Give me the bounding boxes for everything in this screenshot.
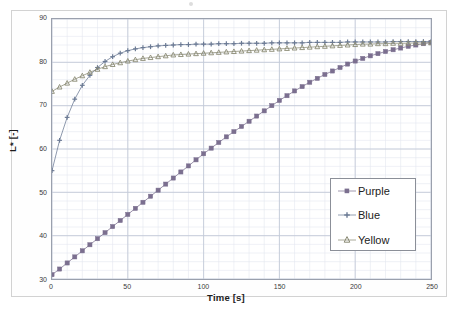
legend-item-blue[interactable]: Blue [331,203,415,227]
x-tick-label: 0 [38,283,64,291]
y-tick-label: 90 [23,14,47,22]
y-axis-title: L* [-] [7,106,18,176]
legend-label: Purple [358,185,390,197]
chart-legend[interactable]: Purple Blue Yellow [330,178,416,251]
x-tick-label: 50 [114,283,140,291]
x-axis-title: Time [s] [0,292,452,303]
square-marker-icon [337,184,357,198]
y-tick-label: 40 [23,232,47,240]
triangle-marker-icon [337,233,357,247]
y-tick-label: 70 [23,101,47,109]
x-tick-label: 250 [419,283,445,291]
chart-figure: 30405060708090 050100150200250 Time [s] … [0,0,452,315]
y-tick-label: 50 [23,189,47,197]
legend-item-yellow[interactable]: Yellow [331,228,415,252]
y-tick-label: 60 [23,145,47,153]
scan-artifact [189,2,193,6]
x-tick-label: 150 [267,283,293,291]
y-tick-label: 80 [23,58,47,66]
plus-marker-icon [337,208,357,222]
x-tick-label: 200 [343,283,369,291]
legend-label: Blue [358,209,380,221]
legend-item-purple[interactable]: Purple [331,179,415,203]
legend-label: Yellow [358,234,389,246]
x-tick-label: 100 [190,283,216,291]
